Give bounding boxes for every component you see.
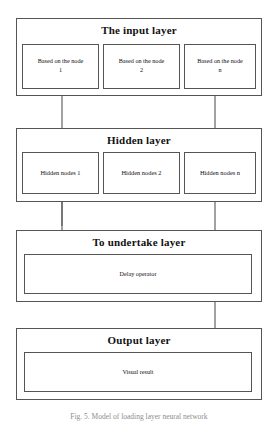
input-node-2-label: Based on the node	[119, 57, 165, 65]
hidden-node-n-label: Hidden nodes n	[200, 169, 240, 177]
delay-operator-label: Delay operator	[120, 270, 157, 278]
figure-caption: Fig. 5. Model of loading layer neural ne…	[0, 412, 278, 425]
input-node-1-label: Based on the node	[38, 57, 84, 65]
hidden-layer-title: Hidden layer	[17, 134, 261, 146]
input-node-n-index: n	[218, 64, 221, 76]
undertake-layer-title: To undertake layer	[17, 236, 261, 248]
input-node-2-index: 2	[140, 64, 143, 76]
hidden-node-2-label: Hidden nodes 2	[121, 169, 161, 177]
visual-result-label: Visual result	[122, 368, 153, 376]
input-node-n-label: Based on the node	[197, 57, 243, 65]
input-layer-title: The input layer	[17, 24, 261, 36]
output-layer-title: Output layer	[17, 334, 261, 346]
input-node-2: Based on the node 2	[103, 44, 180, 89]
input-node-1-index: 1	[59, 64, 62, 76]
hidden-node-2: Hidden nodes 2	[103, 152, 180, 194]
input-node-1: Based on the node 1	[22, 44, 99, 89]
delay-operator-node: Delay operator	[24, 254, 252, 294]
visual-result-node: Visual result	[24, 352, 252, 392]
figure-canvas: The input layer Based on the node 1 Base…	[0, 0, 278, 425]
hidden-node-n: Hidden nodes n	[184, 152, 256, 194]
input-node-n: Based on the node n	[184, 44, 256, 89]
hidden-node-1-label: Hidden nodes 1	[40, 169, 80, 177]
hidden-node-1: Hidden nodes 1	[22, 152, 99, 194]
